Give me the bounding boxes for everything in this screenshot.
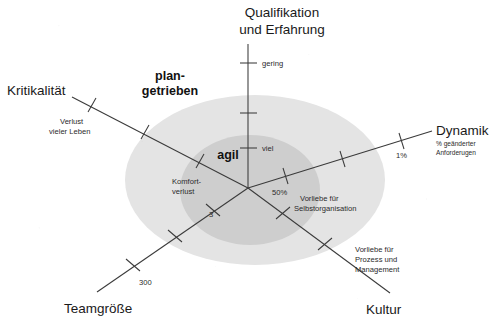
axis-title-kritikalitaet: Kritikalität [7, 83, 66, 98]
tick-label-verlust-line2: vieler Leben [49, 127, 90, 136]
tick-label-verlust-line1: Verlust [60, 117, 84, 126]
shaded-regions [125, 95, 385, 265]
axis-title-qualifikation-line2: und Erfahrung [239, 22, 325, 37]
tick-label-300: 300 [139, 278, 152, 287]
radar-diagram: Qualifikation und Erfahrung Kritikalität… [0, 0, 490, 321]
axis-subtitle-dynamik-line2: Anforderugen [436, 149, 476, 157]
pole-label-plan-line2: getrieben [142, 84, 198, 98]
tick-label-selbstorganisation-line2: Selbstorganisation [294, 204, 356, 213]
pole-label-agil: agil [217, 148, 239, 162]
axis-title-teamgroesse: Teamgröße [64, 301, 132, 316]
tick-label-prozess-line3: Management [355, 265, 400, 274]
tick-label-komfort-line2: verlust [172, 187, 195, 196]
tick-label-selbstorganisation-line1: Vorliebe für [300, 194, 339, 203]
tick-label-viel: viel [262, 144, 274, 153]
tick-label-3: 3 [209, 210, 213, 219]
axis-title-dynamik: Dynamik [436, 123, 489, 138]
tick-label-komfort-line1: Komfort- [172, 177, 202, 186]
axis-title-qualifikation-line1: Qualifikation [245, 5, 319, 20]
radar-canvas: Qualifikation und Erfahrung Kritikalität… [0, 0, 490, 321]
pole-label-plan-line1: plan- [155, 69, 185, 83]
tick-label-gering: gering [262, 59, 283, 68]
tick-kritikalitaet-outer [88, 98, 96, 112]
tick-teamgroesse-outer [126, 259, 140, 271]
tick-label-prozess-line2: Prozess und [355, 255, 397, 264]
axis-subtitle-dynamik-line1: % geänderter [436, 140, 476, 148]
tick-label-1-percent: 1% [396, 151, 407, 160]
tick-label-prozess-line1: Vorliebe für [355, 245, 394, 254]
tick-label-50-percent: 50% [272, 188, 287, 197]
axis-title-kultur: Kultur [366, 302, 402, 317]
